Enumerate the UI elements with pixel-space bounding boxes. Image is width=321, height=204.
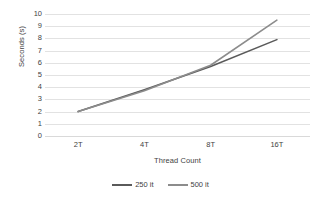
- legend-line-swatch: [168, 184, 188, 186]
- series-lines: [45, 14, 310, 136]
- y-tick-label: 7: [20, 47, 42, 55]
- x-tick-label: 2T: [58, 140, 98, 149]
- x-tick-label: 16T: [257, 140, 297, 149]
- line-chart: Seconds (s) 012345678910 2T4T8T16T Threa…: [0, 0, 321, 204]
- y-tick-label: 4: [20, 83, 42, 91]
- y-tick-label: 3: [20, 95, 42, 103]
- y-tick-label: 1: [20, 120, 42, 128]
- y-tick-label: 2: [20, 108, 42, 116]
- y-tick-label: 8: [20, 34, 42, 42]
- x-tick-label: 8T: [191, 140, 231, 149]
- x-axis-title: Thread Count: [45, 156, 310, 165]
- y-tick-label: 9: [20, 22, 42, 30]
- y-tick-label: 10: [20, 10, 42, 18]
- y-axis-tick-labels: 012345678910: [20, 14, 42, 136]
- chart-legend: 250 it500 it: [0, 180, 321, 189]
- legend-item[interactable]: 250 it: [112, 180, 153, 189]
- series-line: [78, 20, 277, 112]
- legend-label: 250 it: [135, 180, 153, 189]
- y-tick-label: 0: [20, 132, 42, 140]
- y-tick-label: 5: [20, 71, 42, 79]
- y-tick-label: 6: [20, 59, 42, 67]
- legend-line-swatch: [112, 184, 132, 186]
- x-tick-label: 4T: [124, 140, 164, 149]
- x-axis-tick-labels: 2T4T8T16T: [45, 140, 310, 152]
- series-line: [78, 40, 277, 112]
- legend-item[interactable]: 500 it: [168, 180, 209, 189]
- gridline: [45, 136, 310, 137]
- legend-label: 500 it: [191, 180, 209, 189]
- plot-area: [45, 14, 310, 136]
